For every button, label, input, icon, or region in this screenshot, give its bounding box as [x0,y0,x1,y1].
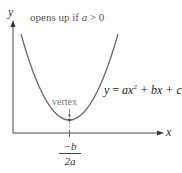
fraction-denominator: 2a [58,155,82,167]
equation: y = ax2 + bx + c [104,83,182,98]
annotation-prefix: opens up if [30,11,82,23]
equation-eq: = [109,83,122,97]
parabola-curve [21,34,118,120]
x-axis-label: x [166,125,171,140]
x-axis-arrow-icon [157,131,164,136]
opens-up-annotation: opens up if a > 0 [30,11,104,23]
equation-rest: + bx + c [137,83,182,97]
vertex-label: vertex [52,96,77,107]
vertex-arrow-icon [68,115,71,119]
annotation-suffix: > 0 [87,11,104,23]
y-axis-label: y [8,5,13,20]
equation-ax: ax [122,83,133,97]
vertex-point [68,118,71,121]
fraction-numerator: −b [58,140,82,152]
fraction-bar [59,153,81,154]
y-axis-arrow-icon [11,20,16,27]
vertex-x-fraction: −b 2a [58,140,82,167]
